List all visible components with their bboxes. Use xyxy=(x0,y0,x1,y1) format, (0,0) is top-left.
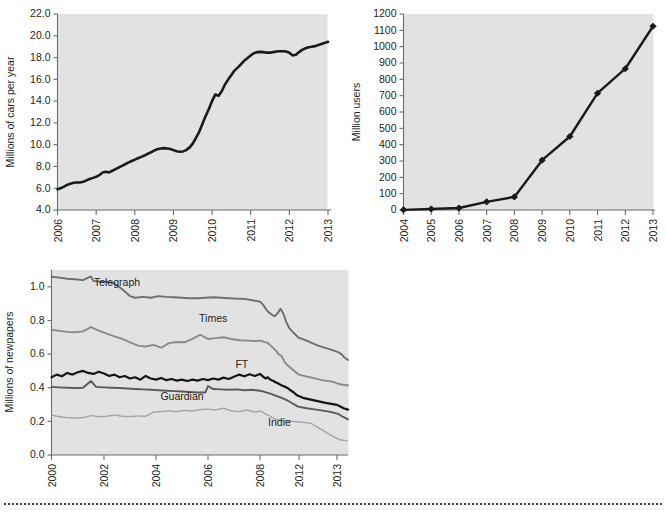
x-tick-label: 2011 xyxy=(245,219,257,242)
users-y-axis-title: Million users xyxy=(350,83,362,141)
x-tick-label: 2012 xyxy=(293,464,305,488)
x-tick-label: 2011 xyxy=(592,219,604,242)
y-tick-label: 700 xyxy=(379,89,397,101)
x-tick-label: 2013 xyxy=(647,219,659,243)
series-label-ft: FT xyxy=(235,358,248,370)
y-tick-label: 0.8 xyxy=(30,314,45,326)
y-tick-label: 1000 xyxy=(373,40,397,52)
x-tick-label: 2006 xyxy=(52,219,64,243)
x-tick-label: 2012 xyxy=(283,219,295,243)
users-chart: 0100200300400500600700800900100011001200… xyxy=(333,0,666,258)
y-tick-label: 18.0 xyxy=(30,51,51,63)
users-x-ticks: 2004200520062007200820092010201120122013 xyxy=(398,210,660,242)
y-tick-label: 8.0 xyxy=(36,160,51,172)
cars-chart-svg: 4.06.08.010.012.014.016.018.020.022.0 20… xyxy=(0,0,340,258)
y-tick-label: 14.0 xyxy=(30,94,51,106)
x-tick-label: 2008 xyxy=(508,219,520,243)
newspapers-y-ticks: 0.00.20.40.60.81.0 xyxy=(30,280,52,460)
users-chart-svg: 0100200300400500600700800900100011001200… xyxy=(333,0,666,258)
y-tick-label: 100 xyxy=(379,187,397,199)
cars-y-ticks: 4.06.08.010.012.014.016.018.020.022.0 xyxy=(30,7,57,215)
y-tick-label: 900 xyxy=(379,56,397,68)
newspapers-x-ticks: 2000200220042006200820122013 xyxy=(46,455,344,487)
x-tick-label: 2008 xyxy=(254,464,266,488)
newspapers-chart: 0.00.20.40.60.81.0 200020022004200620082… xyxy=(0,262,400,514)
y-tick-label: 800 xyxy=(379,73,397,85)
cars-y-axis-title: Millions of cars per year xyxy=(4,56,16,167)
x-tick-label: 2007 xyxy=(90,219,102,243)
y-tick-label: 4.0 xyxy=(36,203,51,215)
y-tick-label: 1200 xyxy=(373,7,397,19)
y-tick-label: 1.0 xyxy=(30,280,45,292)
y-tick-label: 0.6 xyxy=(30,347,45,359)
y-tick-label: 200 xyxy=(379,171,397,183)
y-tick-label: 10.0 xyxy=(30,138,51,150)
y-tick-label: 600 xyxy=(379,105,397,117)
y-tick-label: 300 xyxy=(379,154,397,166)
x-tick-label: 2004 xyxy=(150,464,162,488)
footer-dotted-rule xyxy=(4,503,662,507)
x-tick-label: 2012 xyxy=(619,219,631,243)
y-tick-label: 0.0 xyxy=(30,448,45,460)
x-tick-label: 2010 xyxy=(564,219,576,243)
y-tick-label: 500 xyxy=(379,122,397,134)
users-plot-background xyxy=(404,14,654,210)
x-tick-label: 2004 xyxy=(398,219,410,243)
y-tick-label: 1100 xyxy=(374,24,397,36)
cars-chart: 4.06.08.010.012.014.016.018.020.022.0 20… xyxy=(0,0,340,258)
series-label-guardian: Guardian xyxy=(160,390,203,402)
y-tick-label: 20.0 xyxy=(30,29,51,41)
y-tick-label: 12.0 xyxy=(30,116,51,128)
y-tick-label: 6.0 xyxy=(36,182,51,194)
y-tick-label: 400 xyxy=(379,138,397,150)
y-tick-label: 0.2 xyxy=(30,415,45,427)
x-tick-label: 2010 xyxy=(206,219,218,243)
cars-plot-background xyxy=(58,14,328,210)
x-tick-label: 2009 xyxy=(536,219,548,243)
x-tick-label: 2007 xyxy=(481,219,493,243)
cars-x-ticks: 20062007200820092010201120122013 xyxy=(52,210,335,242)
x-tick-label: 2000 xyxy=(46,464,58,488)
newspapers-chart-svg: 0.00.20.40.60.81.0 200020022004200620082… xyxy=(0,262,400,514)
y-tick-label: 0.4 xyxy=(30,381,45,393)
y-tick-label: 16.0 xyxy=(30,73,51,85)
x-tick-label: 2005 xyxy=(425,219,437,243)
x-tick-label: 2013 xyxy=(331,464,343,488)
x-tick-label: 2009 xyxy=(167,219,179,243)
series-label-indie: Indie xyxy=(268,416,291,428)
x-tick-label: 2002 xyxy=(98,464,110,488)
newspapers-y-axis-title: Millions of newpapers xyxy=(3,312,15,413)
x-tick-label: 2006 xyxy=(202,464,214,488)
y-tick-label: 0 xyxy=(391,203,397,215)
series-label-times: Times xyxy=(199,312,227,324)
y-tick-label: 22.0 xyxy=(30,7,51,19)
users-y-ticks: 0100200300400500600700800900100011001200 xyxy=(373,7,403,215)
x-tick-label: 2008 xyxy=(129,219,141,243)
x-tick-label: 2006 xyxy=(453,219,465,243)
series-label-telegraph: Telegraph xyxy=(94,276,140,288)
